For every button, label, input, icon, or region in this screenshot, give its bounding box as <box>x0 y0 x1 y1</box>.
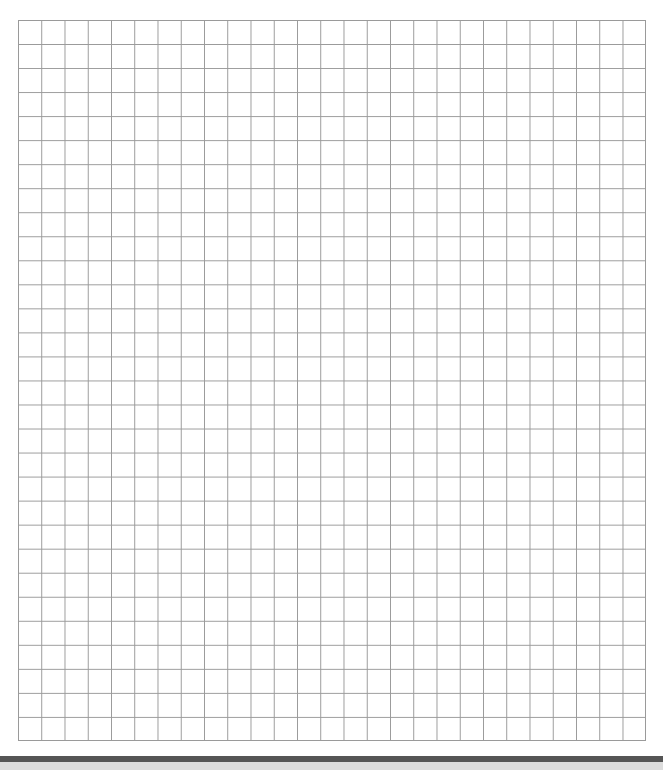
graph-paper-grid <box>18 20 646 741</box>
bottom-gray-strip <box>0 762 663 770</box>
